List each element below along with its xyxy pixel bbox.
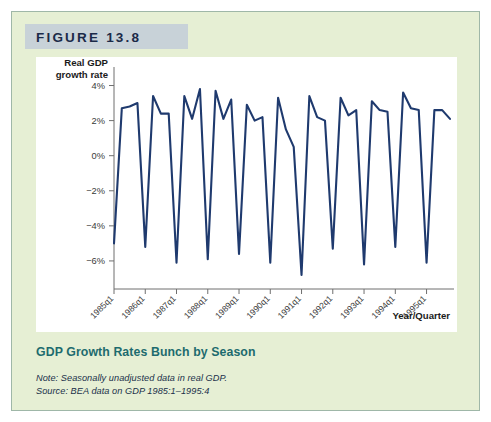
x-tick-label: 1993q1 xyxy=(338,293,366,321)
x-tick-label: 1990q1 xyxy=(244,293,272,321)
x-tick-label: 1989q1 xyxy=(213,293,241,321)
y-tick-label: 2% xyxy=(92,116,105,126)
gdp-growth-line-chart: 4%2%0%−2%−4%−6% 1985q11986q11987q11988q1… xyxy=(36,57,457,332)
y-tick-label: −6% xyxy=(86,256,105,266)
x-tick-label: 1986q1 xyxy=(119,293,147,321)
x-axis-title-label: Year/Quarter xyxy=(392,310,450,321)
figure-note: Note: Seasonally unadjusted data in real… xyxy=(36,373,227,383)
chart-plot-card: 4%2%0%−2%−4%−6% 1985q11986q11987q11988q1… xyxy=(36,57,457,332)
y-axis-title-line: growth rate xyxy=(56,69,108,80)
figure-panel: FIGURE 13.8 4%2%0%−2%−4%−6% 1985q11986q1… xyxy=(11,11,480,411)
x-tick-label: 1985q1 xyxy=(88,293,116,321)
x-tick-label: 1988q1 xyxy=(182,293,210,321)
figure-number-label: FIGURE 13.8 xyxy=(36,30,141,45)
y-tick-label: 0% xyxy=(92,151,105,161)
y-axis-title-line: Real GDP xyxy=(64,57,108,68)
x-tick-label: 1992q1 xyxy=(307,293,335,321)
figure-source: Source: BEA data on GDP 1985:1–1995:4 xyxy=(36,386,209,396)
y-axis: 4%2%0%−2%−4%−6% xyxy=(86,67,114,289)
series-real-gdp-growth-rate xyxy=(114,89,450,275)
x-tick-label: 1991q1 xyxy=(276,293,304,321)
x-tick-label: 1987q1 xyxy=(151,293,179,321)
figure-caption-title: GDP Growth Rates Bunch by Season xyxy=(36,345,256,359)
series-line-path xyxy=(114,89,450,275)
y-tick-label: 4% xyxy=(92,81,105,91)
y-tick-label: −2% xyxy=(86,186,105,196)
y-axis-title: Real GDPgrowth rate xyxy=(56,57,109,80)
y-tick-label: −4% xyxy=(86,221,105,231)
